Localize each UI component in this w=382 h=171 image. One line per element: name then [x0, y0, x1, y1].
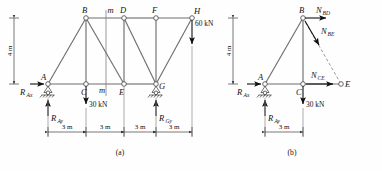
web-members	[48, 18, 192, 84]
node-label-D: D	[119, 5, 127, 15]
node-A	[46, 82, 51, 87]
force-nbe-b: N BE	[305, 21, 335, 45]
node-A-b	[263, 82, 268, 87]
node-label-A-b: A	[257, 72, 264, 82]
member-AB-b	[265, 18, 303, 84]
section-m-bottom-label: m	[99, 85, 105, 95]
reaction-rax-b: R Ax	[236, 84, 261, 98]
load-60kn-label: 60 kN	[195, 19, 214, 28]
truss-figure-svg: m m A B C D E F G H	[0, 0, 382, 171]
reaction-rax-sub-b: Ax	[243, 92, 250, 98]
node-F	[154, 16, 159, 21]
node-C	[84, 82, 89, 87]
force-nbd-b: N BD	[305, 5, 330, 18]
load-30kn-label: 30 kN	[89, 100, 108, 109]
node-G	[154, 82, 159, 87]
panel-b: A B C E N BD N BE	[225, 5, 351, 158]
node-label-E-b: E	[344, 79, 351, 89]
span-dim-1-label-b: 3 m	[279, 123, 290, 131]
reaction-rax-a: R Ax	[19, 84, 44, 98]
node-label-C-b: C	[296, 87, 302, 97]
force-nce-b: N CE	[306, 70, 333, 84]
span-dim-1-label: 3 m	[62, 123, 73, 131]
load-30kn-b: 30 kN	[303, 86, 325, 109]
span-dim-2-label: 3 m	[100, 123, 111, 131]
member-BE	[86, 18, 124, 84]
span-dim-3-label: 3 m	[135, 123, 146, 131]
reaction-rax-label: R	[19, 87, 26, 97]
height-dimension-a: 4 m	[6, 18, 19, 84]
member-HG	[156, 18, 192, 84]
member-AB	[48, 18, 86, 84]
reaction-ray-label-b: R	[267, 113, 274, 123]
node-label-B-b: B	[299, 5, 304, 15]
node-label-F: F	[151, 5, 158, 15]
node-B-b	[301, 16, 306, 21]
panel-a: m m A B C D E F G H	[6, 5, 214, 158]
figure-root: m m A B C D E F G H	[0, 0, 382, 171]
height-dimension-b: 4 m	[225, 18, 238, 84]
node-label-H: H	[193, 6, 201, 16]
node-D	[122, 16, 127, 21]
node-H	[190, 16, 195, 21]
force-nbd-sub: BD	[323, 10, 330, 16]
node-B	[84, 16, 89, 21]
node-label-G: G	[159, 81, 165, 91]
reaction-rgy-label: R	[158, 113, 165, 123]
load-30kn-label-b: 30 kN	[306, 100, 325, 109]
span-dimension-chain-a: 3 m 3 m 3 m 3 m	[48, 123, 192, 137]
reaction-rgy-a: R Gy	[156, 100, 173, 124]
node-E-b	[339, 82, 344, 87]
node-label-B: B	[82, 5, 87, 15]
pin-support-A-b	[257, 86, 272, 97]
load-60kn-a: 60 kN	[192, 19, 214, 44]
node-E	[122, 82, 127, 87]
reaction-ray-a: R Ay	[48, 100, 64, 124]
reaction-rax-label-b: R	[236, 87, 243, 97]
height-dimension-label: 4 m	[6, 45, 14, 56]
height-dimension-label-b: 4 m	[225, 45, 233, 56]
panel-a-caption: (a)	[116, 148, 125, 157]
reaction-rax-sub: Ax	[26, 92, 33, 98]
span-dim-4-label: 3 m	[169, 123, 180, 131]
section-m-top-label: m	[108, 5, 114, 15]
node-C-b	[301, 82, 306, 87]
panel-b-caption: (b)	[288, 148, 297, 157]
pin-support-A	[40, 86, 55, 97]
force-nce-sub: CE	[318, 75, 326, 81]
reaction-ray-b: R Ay	[265, 100, 281, 124]
reaction-ray-label: R	[50, 113, 57, 123]
node-label-A: A	[40, 72, 47, 82]
span-dimension-chain-b: 3 m	[265, 123, 303, 137]
member-DG	[124, 18, 156, 84]
force-nbe-sub: BE	[328, 31, 335, 37]
